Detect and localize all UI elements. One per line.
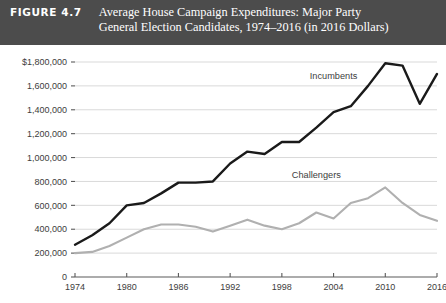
x-axis-tick-label: 2016 [427, 282, 446, 292]
x-axis-tick-label: 1998 [272, 282, 292, 292]
chart-area: 0200,000400,000600,000800,0001,000,0001,… [0, 45, 446, 303]
y-axis-tick-label: 600,000 [34, 201, 67, 211]
y-axis-labels: 0200,000400,000600,000800,0001,000,0001,… [22, 57, 67, 282]
figure-title-line-2: General Election Candidates, 1974–2016 (… [99, 20, 436, 35]
figure-title: Average House Campaign Expenditures: Maj… [99, 5, 436, 35]
x-axis-labels: 19741980198619921998200420102016 [65, 282, 446, 292]
series-line-incumbents [75, 63, 437, 245]
series-annotation-labels: IncumbentsChallengers [292, 71, 358, 180]
y-axis-tick-label: 800,000 [34, 177, 67, 187]
x-axis-tick-label: 1974 [65, 282, 85, 292]
x-axis-tick-label: 1980 [117, 282, 137, 292]
series-line-challengers [75, 187, 437, 253]
figure-title-line-1: Average House Campaign Expenditures: Maj… [99, 5, 436, 20]
y-axis-tick-label: 1,000,000 [27, 153, 67, 163]
y-axis-tick-label: $1,800,000 [22, 57, 67, 67]
header-row: FIGURE 4.7 Average House Campaign Expend… [10, 5, 436, 35]
y-axis-tick-label: 1,600,000 [27, 81, 67, 91]
line-chart: 0200,000400,000600,000800,0001,000,0001,… [0, 45, 446, 303]
series-label-incumbents: Incumbents [310, 71, 358, 81]
figure-container: FIGURE 4.7 Average House Campaign Expend… [0, 0, 446, 303]
x-axis-tick-label: 1992 [220, 282, 240, 292]
y-axis-tick-label: 400,000 [34, 224, 67, 234]
x-axis-tick-marks [75, 273, 437, 277]
x-axis-tick-label: 1986 [168, 282, 188, 292]
figure-header-band: FIGURE 4.7 Average House Campaign Expend… [0, 0, 446, 45]
x-axis-tick-label: 2004 [324, 282, 344, 292]
figure-number-label: FIGURE 4.7 [10, 5, 82, 18]
series-label-challengers: Challengers [292, 170, 341, 180]
y-axis-tick-label: 200,000 [34, 248, 67, 258]
gridlines-group [75, 62, 437, 253]
y-axis-tick-label: 0 [62, 272, 67, 282]
y-axis-tick-label: 1,400,000 [27, 105, 67, 115]
x-axis-tick-label: 2010 [375, 282, 395, 292]
data-series-group [75, 63, 437, 253]
y-axis-tick-label: 1,200,000 [27, 129, 67, 139]
